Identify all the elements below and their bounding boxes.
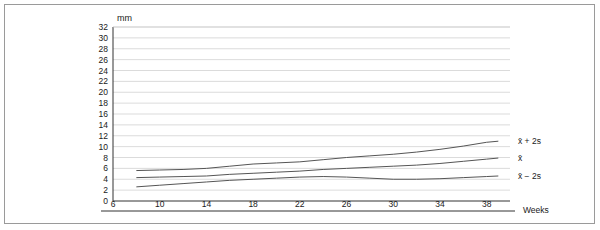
x-tick-label: 10 [155, 199, 165, 209]
series-label: x̄ + 2s [518, 136, 541, 146]
chart-frame: 02468101214161820222426283032mm610141822… [4, 4, 595, 224]
x-tick-label: 22 [295, 199, 305, 209]
y-tick-label: 24 [99, 66, 109, 76]
y-tick-label: 16 [99, 109, 109, 119]
data-series-line [136, 176, 498, 187]
data-series-line [136, 141, 498, 170]
y-tick-label: 6 [103, 163, 108, 173]
series-label: x̄ [518, 153, 523, 163]
x-tick-label: 34 [435, 199, 445, 209]
y-tick-label: 14 [99, 120, 109, 130]
x-tick-label: 14 [202, 199, 212, 209]
y-axis-unit-label: mm [117, 13, 132, 23]
chart-plot-area: 02468101214161820222426283032mm610141822… [5, 5, 596, 225]
data-series-line [136, 158, 498, 178]
y-tick-label: 8 [103, 153, 108, 163]
y-tick-label: 28 [99, 44, 109, 54]
y-tick-label: 18 [99, 98, 109, 108]
x-tick-label: 30 [389, 199, 399, 209]
x-tick-label: 26 [342, 199, 352, 209]
y-tick-label: 4 [103, 174, 108, 184]
y-tick-label: 26 [99, 55, 109, 65]
x-tick-label: 6 [111, 199, 116, 209]
x-axis-title: Weeks [523, 205, 549, 215]
x-tick-label: 38 [482, 199, 492, 209]
y-tick-label: 12 [99, 131, 109, 141]
series-label: x̄ − 2s [518, 171, 541, 181]
y-tick-label: 2 [103, 185, 108, 195]
y-tick-label: 10 [99, 142, 109, 152]
y-tick-label: 0 [103, 196, 108, 206]
y-tick-label: 32 [99, 22, 109, 32]
line-chart: 02468101214161820222426283032mm610141822… [5, 5, 596, 225]
x-tick-label: 18 [248, 199, 258, 209]
y-tick-label: 30 [99, 33, 109, 43]
y-tick-label: 22 [99, 76, 109, 86]
y-tick-label: 20 [99, 87, 109, 97]
